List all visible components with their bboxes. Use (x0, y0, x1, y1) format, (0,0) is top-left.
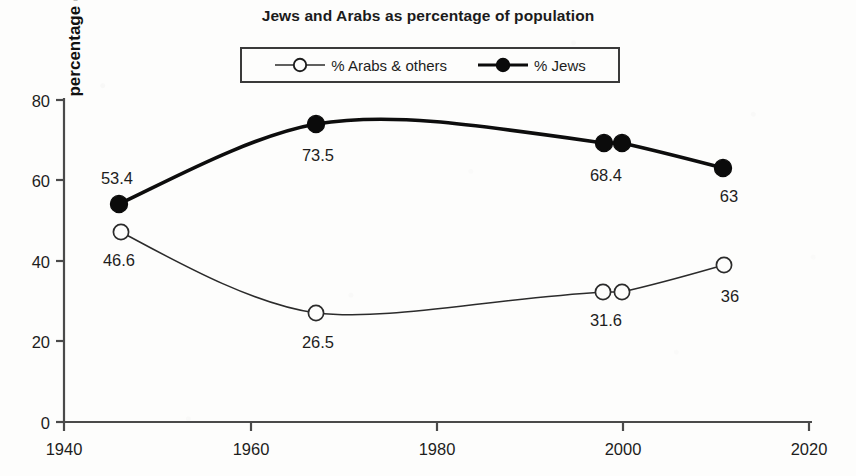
series-line-jews (119, 119, 723, 204)
data-point-arabs-2011[interactable] (716, 257, 731, 272)
series-line-arabs (121, 232, 724, 315)
data-point-arabs-1998[interactable] (595, 284, 610, 299)
data-label-arabs-1946: 46.6 (103, 251, 135, 269)
chart-page: Jews and Arabs as percentage of populati… (0, 0, 856, 476)
y-tick-label-20: 20 (32, 333, 50, 351)
x-tick-label-1980: 1980 (419, 440, 456, 458)
data-point-jews-1946[interactable] (110, 195, 127, 212)
y-tick-label-80: 80 (32, 92, 50, 110)
x-tick-label-2000: 2000 (605, 440, 642, 458)
y-tick-label-0: 0 (41, 414, 50, 432)
data-label-arabs-1998: 31.6 (590, 311, 622, 329)
data-point-jews-2011[interactable] (714, 159, 731, 176)
data-label-jews-1998: 68.4 (590, 166, 622, 184)
plot-area: 80 60 40 20 0 1940 1960 1980 2000 2020 (0, 0, 856, 476)
data-point-jews-1967[interactable] (307, 115, 324, 132)
data-label-arabs-1967: 26.5 (302, 333, 334, 351)
data-label-jews-2011: 63 (720, 187, 738, 205)
x-tick-label-2020: 2020 (791, 440, 828, 458)
y-tick-label-60: 60 (32, 172, 50, 190)
data-point-arabs-2000[interactable] (614, 284, 629, 299)
x-tick-label-1960: 1960 (233, 440, 270, 458)
data-point-arabs-1967[interactable] (308, 305, 323, 320)
y-tick-label-40: 40 (32, 253, 50, 271)
data-point-arabs-1946[interactable] (113, 224, 128, 239)
data-label-jews-1946: 53.4 (101, 169, 133, 187)
data-point-jews-1998[interactable] (595, 134, 612, 151)
data-label-arabs-2011: 36 (721, 287, 739, 305)
data-label-jews-1967: 73.5 (302, 146, 334, 164)
data-point-jews-2000[interactable] (613, 134, 630, 151)
x-tick-label-1940: 1940 (46, 440, 83, 458)
